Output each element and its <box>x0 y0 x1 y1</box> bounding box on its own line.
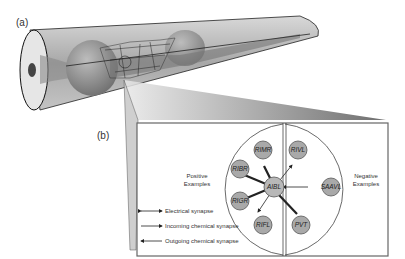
panel-b-label: (b) <box>97 130 109 141</box>
node-aibl: AIBL <box>264 177 284 197</box>
positive-label-line2: Examples <box>184 181 210 187</box>
positive-label-line1: Positive <box>186 173 208 179</box>
svg-text:RIVL: RIVL <box>291 146 306 153</box>
legend-electrical: Electrical synapse <box>165 208 214 214</box>
node-rifl: RIFL <box>254 216 272 234</box>
node-rigr: RIGR <box>231 192 249 210</box>
negative-label-line1: Negative <box>354 173 378 179</box>
node-pvt: PVT <box>292 216 310 234</box>
legend-outgoing: Outgoing chemical synapse <box>165 238 239 244</box>
svg-text:RIMR: RIMR <box>255 146 272 153</box>
legend-incoming: Incoming chemical synapse <box>165 223 239 229</box>
diagram-canvas: RIMR RIBR RIGR RIFL AIBL RIVL SAAVL PVT … <box>0 0 405 259</box>
node-rimr: RIMR <box>254 141 272 159</box>
node-ribr: RIBR <box>231 160 249 178</box>
svg-text:SAAVL: SAAVL <box>321 183 342 190</box>
negative-label-line2: Examples <box>353 181 379 187</box>
panel-a-label: (a) <box>16 17 28 28</box>
node-rivl: RIVL <box>289 141 307 159</box>
svg-text:AIBL: AIBL <box>266 183 281 190</box>
svg-text:RIGR: RIGR <box>232 197 249 204</box>
svg-text:PVT: PVT <box>295 221 309 228</box>
svg-text:RIBR: RIBR <box>232 165 248 172</box>
svg-text:RIFL: RIFL <box>256 221 270 228</box>
